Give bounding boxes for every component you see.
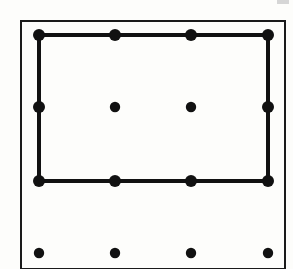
node-top-edge-mid-left bbox=[109, 29, 121, 41]
node-top-edge-mid-right bbox=[185, 29, 197, 41]
inner-bold-rectangle bbox=[39, 35, 268, 181]
node-left-edge-middle bbox=[33, 101, 45, 113]
node-bottom-edge-mid-left bbox=[109, 175, 121, 187]
node-top-right-corner bbox=[262, 29, 274, 41]
node-bottom-left-corner bbox=[33, 175, 45, 187]
outer-border-rectangle bbox=[21, 21, 285, 269]
node-bottom-right-corner bbox=[262, 175, 274, 187]
node-outside-row-col4 bbox=[263, 248, 273, 258]
node-right-edge-middle bbox=[262, 101, 274, 113]
figure-container: Rectangular frame with inner rectangle a… bbox=[0, 0, 293, 269]
node-interior-mid-right bbox=[186, 102, 196, 112]
node-interior-mid-left bbox=[110, 102, 120, 112]
node-outside-row-col3 bbox=[186, 248, 196, 258]
scan-artifact-top-right bbox=[277, 0, 289, 4]
inner-bold-rectangle bbox=[39, 35, 268, 181]
node-bottom-edge-mid-right bbox=[185, 175, 197, 187]
scan-artifact-top-right bbox=[277, 0, 289, 4]
node-top-left-corner bbox=[33, 29, 45, 41]
node-outside-row-col1 bbox=[34, 248, 44, 258]
outer-border-rectangle bbox=[21, 21, 285, 269]
node-markers-group bbox=[33, 29, 274, 258]
diagram-canvas bbox=[0, 0, 293, 269]
node-outside-row-col2 bbox=[110, 248, 120, 258]
